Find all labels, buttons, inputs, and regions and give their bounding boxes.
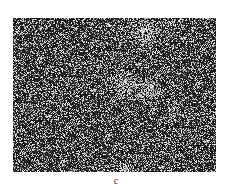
panel-label: c	[0, 175, 232, 186]
micrograph-canvas	[13, 18, 216, 172]
figure-image	[13, 18, 216, 172]
